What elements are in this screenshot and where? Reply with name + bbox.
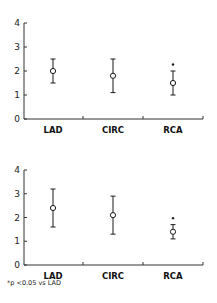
error-bar-point bbox=[110, 59, 115, 93]
x-category-label: RCA bbox=[163, 271, 183, 281]
chart-2-plot: 01234LADCIRCRCA bbox=[0, 147, 217, 282]
mean-marker-icon bbox=[170, 80, 175, 85]
x-category-label: LAD bbox=[43, 125, 62, 135]
significance-asterisk-icon bbox=[172, 63, 174, 65]
x-category-label: CIRC bbox=[102, 271, 124, 281]
y-tick-label: 4 bbox=[14, 165, 20, 175]
x-category-label: RCA bbox=[163, 125, 183, 135]
chart-panel-1: 01234LADCIRCRCA bbox=[0, 0, 217, 140]
significance-asterisk-icon bbox=[172, 217, 174, 219]
mean-marker-icon bbox=[50, 205, 55, 210]
error-bar-point bbox=[170, 63, 175, 95]
error-bar-point bbox=[110, 196, 115, 234]
y-tick-label: 0 bbox=[14, 114, 20, 124]
error-bar-point bbox=[50, 59, 55, 83]
mean-marker-icon bbox=[110, 73, 115, 78]
y-tick-label: 0 bbox=[14, 260, 20, 270]
x-category-label: CIRC bbox=[102, 125, 124, 135]
mean-marker-icon bbox=[50, 68, 55, 73]
error-bar-point bbox=[170, 217, 175, 239]
y-tick-label: 1 bbox=[14, 90, 20, 100]
chart-1-plot: 01234LADCIRCRCA bbox=[0, 0, 217, 140]
y-tick-label: 2 bbox=[14, 66, 20, 76]
error-bar-point bbox=[50, 189, 55, 227]
y-tick-label: 4 bbox=[14, 18, 20, 28]
mean-marker-icon bbox=[170, 229, 175, 234]
y-tick-label: 1 bbox=[14, 236, 20, 246]
significance-footnote: *p <0.05 vs LAD bbox=[7, 279, 61, 287]
y-tick-label: 2 bbox=[14, 213, 20, 223]
chart-panel-2: 01234LADCIRCRCA bbox=[0, 147, 217, 282]
y-tick-label: 3 bbox=[14, 189, 20, 199]
mean-marker-icon bbox=[110, 213, 115, 218]
y-tick-label: 3 bbox=[14, 42, 20, 52]
